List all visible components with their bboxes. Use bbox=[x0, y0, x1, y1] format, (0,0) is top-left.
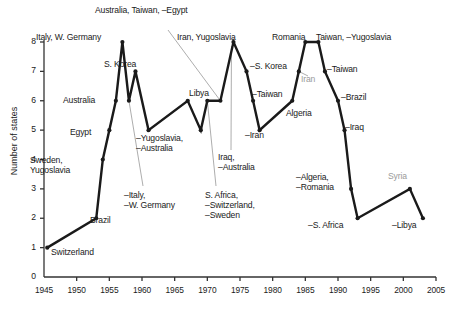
annotation-minus-taiwan-mid: –Taiwan bbox=[252, 89, 282, 99]
data-point bbox=[218, 99, 222, 103]
data-point bbox=[356, 216, 360, 220]
annotation-minus-brazil: –Brazil bbox=[341, 92, 366, 102]
annotation-australia-taiwan-egypt: Australia, Taiwan, –Egypt bbox=[95, 5, 188, 15]
y-tick-0: 0 bbox=[14, 271, 36, 281]
data-point bbox=[421, 216, 425, 220]
data-point bbox=[349, 187, 353, 191]
y-tick-1: 1 bbox=[14, 242, 36, 252]
x-tick-2005: 2005 bbox=[416, 285, 453, 295]
data-point bbox=[107, 128, 111, 132]
data-point bbox=[408, 187, 412, 191]
annotation-minus-italy-w-germany: –Italy, –W. Germany bbox=[124, 190, 175, 210]
data-point bbox=[45, 246, 49, 250]
annotation-minus-s-africa: –S. Africa bbox=[308, 220, 343, 230]
annotation-minus-algeria-romania: –Algeria, –Romania bbox=[296, 172, 334, 192]
y-tick-3: 3 bbox=[14, 183, 36, 193]
annotation-egypt: Egypt bbox=[70, 127, 91, 137]
data-point bbox=[120, 40, 124, 44]
data-point bbox=[127, 99, 131, 103]
annotation-romania: Romania bbox=[272, 32, 305, 42]
data-point bbox=[101, 157, 105, 161]
data-point bbox=[114, 99, 118, 103]
annotation-italy-w-germany: Italy, W. Germany bbox=[36, 32, 101, 42]
annotation-s-korea: S. Korea bbox=[104, 59, 136, 69]
annotation-iran-gray: Iran bbox=[301, 74, 315, 84]
annotation-minus-libya: –Libya bbox=[392, 220, 416, 230]
data-point bbox=[205, 99, 209, 103]
annotation-minus-taiwan-right: –Taiwan bbox=[327, 64, 357, 74]
data-point bbox=[199, 128, 203, 132]
annotation-algeria: Algeria bbox=[286, 108, 312, 118]
annotation-australia: Australia bbox=[63, 95, 95, 105]
annotation-brazil: Brazil bbox=[90, 215, 111, 225]
annotation-iraq-minus-australia: Iraq, –Australia bbox=[218, 152, 255, 172]
data-point bbox=[290, 99, 294, 103]
y-tick-7: 7 bbox=[14, 65, 36, 75]
y-tick-6: 6 bbox=[14, 95, 36, 105]
annotation-s-africa-switzerland-sweden: S. Africa, –Switzerland, –Sweden bbox=[205, 190, 255, 220]
annotation-minus-yugoslavia-australia: –Yugoslavia, –Australia bbox=[136, 133, 183, 153]
annotation-iran-yugoslavia: Iran, Yugoslavia bbox=[177, 32, 236, 42]
y-tick-5: 5 bbox=[14, 124, 36, 134]
chart-container: Number of states 012345678 1945195019551… bbox=[0, 0, 453, 311]
annotation-switzerland: Switzerland bbox=[51, 247, 94, 257]
data-point bbox=[146, 128, 150, 132]
annotation-syria-gray: Syria bbox=[388, 171, 407, 181]
annotation-libya: Libya bbox=[189, 88, 209, 98]
data-point bbox=[133, 69, 137, 73]
annotation-taiwan-minus-yugoslavia: Taiwan, –Yugoslavia bbox=[316, 32, 391, 42]
y-tick-8: 8 bbox=[14, 36, 36, 46]
annotation-minus-iran: –Iran bbox=[245, 130, 264, 140]
data-point bbox=[336, 99, 340, 103]
leader-line bbox=[207, 101, 216, 186]
annotation-minus-s-korea: –S. Korea bbox=[250, 61, 287, 71]
annotation-sweden-yugoslavia: Sweden, Yugoslavia bbox=[30, 155, 70, 175]
data-point bbox=[244, 69, 248, 73]
annotation-minus-iraq: –Iraq bbox=[345, 122, 364, 132]
y-axis-label: Number of states bbox=[9, 91, 19, 191]
data-point bbox=[297, 69, 301, 73]
data-point bbox=[251, 99, 255, 103]
data-point bbox=[186, 99, 190, 103]
y-tick-2: 2 bbox=[14, 212, 36, 222]
